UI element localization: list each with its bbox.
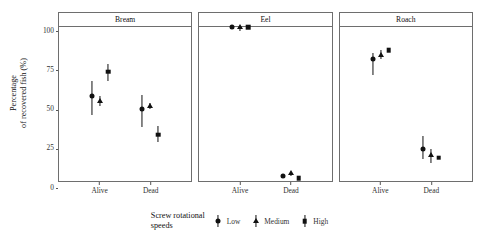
y-tick-label: 50 <box>47 104 54 113</box>
legend-title: Screw rotational speeds <box>151 211 205 231</box>
data-point <box>434 27 444 181</box>
y-tick-label: 100 <box>43 26 54 35</box>
x-axis-panel-roach: AliveDead <box>339 182 473 198</box>
y-axis-title-line-1: Percentage <box>9 58 19 128</box>
facet-plot-area-eel <box>198 26 332 182</box>
facet-panel-roach: Roach <box>339 12 473 182</box>
data-point <box>384 27 394 181</box>
y-axis: 0255075100 <box>36 18 58 182</box>
circle-marker <box>421 146 426 151</box>
x-tick-label: Alive <box>232 186 248 195</box>
y-tick: 50 <box>36 110 58 111</box>
x-axis: AliveDeadAliveDeadAliveDead <box>58 182 473 198</box>
x-tick: Dead <box>283 182 299 195</box>
legend-title-line-1: Screw rotational <box>151 211 205 221</box>
legend-title-line-2: speeds <box>151 221 205 231</box>
legend-key-circle <box>214 215 223 227</box>
legend-label: Low <box>227 217 241 226</box>
facet-panel-bream: Bream <box>58 12 192 182</box>
facet-plot-area-roach <box>339 26 473 182</box>
data-point <box>103 27 113 181</box>
y-tick: 0 <box>36 188 58 189</box>
y-tick: 75 <box>36 70 58 71</box>
legend-key-triangle <box>251 215 260 227</box>
triangle-marker <box>253 218 259 223</box>
legend-item-medium[interactable]: Medium <box>251 215 289 227</box>
x-tick: Dead <box>143 182 159 195</box>
x-tick-mark <box>99 182 100 185</box>
x-axis-panel-eel: AliveDead <box>198 182 332 198</box>
square-marker <box>386 48 391 53</box>
x-tick-label: Alive <box>91 186 107 195</box>
circle-marker <box>370 57 375 62</box>
x-tick-label: Dead <box>283 186 299 195</box>
facet-strip-label: Bream <box>58 12 192 26</box>
circle-marker <box>280 174 285 179</box>
x-tick-label: Dead <box>143 186 159 195</box>
facet-panels: BreamEelRoach <box>58 12 473 182</box>
x-tick-mark <box>239 182 240 185</box>
data-point <box>243 27 253 181</box>
square-marker <box>106 69 111 74</box>
square-marker <box>246 25 251 30</box>
x-tick-label: Dead <box>424 186 440 195</box>
x-tick-mark <box>380 182 381 185</box>
circle-marker <box>140 106 145 111</box>
facet-strip-label: Roach <box>339 12 473 26</box>
facet-strip-label: Eel <box>198 12 332 26</box>
facet-plot-area-bream <box>58 26 192 182</box>
legend-items: LowMediumHigh <box>214 215 328 227</box>
x-tick-mark <box>150 182 151 185</box>
y-tick: 25 <box>36 149 58 150</box>
circle-marker <box>230 25 235 30</box>
y-axis-title: Percentage of recovered fish (%) <box>2 0 36 185</box>
legend: Screw rotational speeds LowMediumHigh <box>0 211 479 231</box>
square-marker <box>296 176 301 181</box>
x-tick-label: Alive <box>372 186 388 195</box>
legend-item-high[interactable]: High <box>300 215 328 227</box>
square-marker <box>156 133 161 138</box>
x-tick: Dead <box>424 182 440 195</box>
x-tick: Alive <box>232 182 248 195</box>
facet-panel-eel: Eel <box>198 12 332 182</box>
chart-figure: Percentage of recovered fish (%) 0255075… <box>0 0 479 235</box>
y-axis-title-line-2: of recovered fish (%) <box>19 58 29 128</box>
y-tick-label: 0 <box>50 183 54 192</box>
x-axis-panel-bream: AliveDead <box>58 182 192 198</box>
y-tick: 100 <box>36 31 58 32</box>
square-marker <box>303 219 308 224</box>
y-tick-label: 75 <box>47 65 54 74</box>
data-point <box>294 27 304 181</box>
x-tick-mark <box>291 182 292 185</box>
x-tick-mark <box>431 182 432 185</box>
square-marker <box>437 156 442 161</box>
x-tick: Alive <box>372 182 388 195</box>
legend-label: Medium <box>264 217 289 226</box>
circle-marker <box>90 94 95 99</box>
legend-key-square <box>300 215 309 227</box>
legend-label: High <box>313 217 328 226</box>
data-point <box>153 27 163 181</box>
legend-item-low[interactable]: Low <box>214 215 241 227</box>
circle-marker <box>216 219 221 224</box>
y-tick-label: 25 <box>47 143 54 152</box>
x-tick: Alive <box>91 182 107 195</box>
